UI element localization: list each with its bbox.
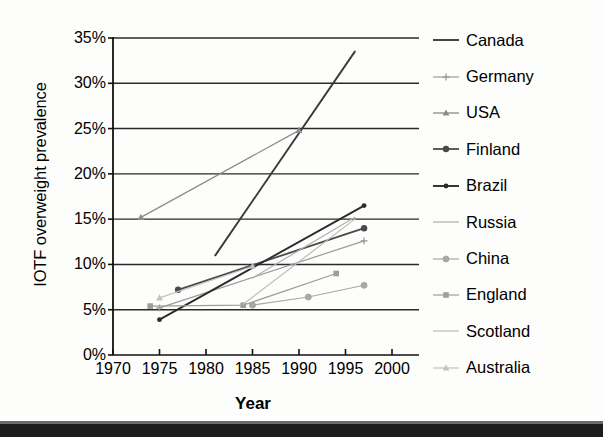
- legend-swatch-canada-icon: [432, 33, 460, 47]
- data-point-marker: [443, 146, 449, 152]
- legend-label: Russia: [466, 214, 516, 231]
- legend-item-scotland[interactable]: Scotland: [432, 313, 602, 349]
- chart-legend: CanadaGermanyUSAFinlandBrazilRussiaChina…: [432, 22, 602, 386]
- data-point-marker: [333, 271, 339, 277]
- data-point-marker: [147, 303, 153, 309]
- legend-label: Germany: [466, 68, 534, 85]
- series-line: [215, 52, 354, 256]
- legend-swatch-usa-icon: [432, 106, 460, 120]
- legend-label: Brazil: [466, 177, 507, 194]
- legend-item-russia[interactable]: Russia: [432, 204, 602, 240]
- series-line: [178, 228, 364, 290]
- legend-item-germany[interactable]: Germany: [432, 58, 602, 94]
- legend-swatch-china-icon: [432, 252, 460, 266]
- legend-label: Scotland: [466, 323, 530, 340]
- legend-item-usa[interactable]: USA: [432, 95, 602, 131]
- legend-item-australia[interactable]: Australia: [432, 350, 602, 386]
- series-canada: [215, 52, 354, 256]
- legend-label: England: [466, 286, 527, 303]
- chart-figure: IOTF overweight prevalence 0%5%10%15%20%…: [0, 0, 603, 437]
- legend-item-finland[interactable]: Finland: [432, 131, 602, 167]
- legend-label: Finland: [466, 141, 520, 158]
- legend-swatch-england-icon: [432, 288, 460, 302]
- legend-item-canada[interactable]: Canada: [432, 22, 602, 58]
- series-line: [253, 217, 355, 278]
- legend-swatch-australia-icon: [432, 361, 460, 375]
- data-series-layer: [138, 52, 368, 322]
- series-line: [160, 206, 365, 320]
- series-line: [243, 219, 355, 304]
- data-point-marker: [443, 292, 449, 298]
- legend-label: China: [466, 250, 509, 267]
- legend-item-england[interactable]: England: [432, 277, 602, 313]
- data-point-marker: [362, 203, 367, 208]
- series-russia: [253, 217, 355, 278]
- legend-swatch-finland-icon: [432, 142, 460, 156]
- data-point-marker: [157, 317, 162, 322]
- legend-swatch-scotland-icon: [432, 324, 460, 338]
- data-point-marker: [138, 214, 145, 220]
- legend-label: USA: [466, 104, 500, 121]
- legend-label: Australia: [466, 359, 530, 376]
- legend-swatch-germany-icon: [432, 70, 460, 84]
- legend-swatch-russia-icon: [432, 215, 460, 229]
- data-point-marker: [444, 183, 449, 188]
- legend-item-china[interactable]: China: [432, 240, 602, 276]
- data-point-marker: [305, 294, 311, 300]
- data-point-marker: [361, 282, 367, 288]
- legend-swatch-brazil-icon: [432, 179, 460, 193]
- data-point-marker: [443, 256, 449, 262]
- series-scotland: [243, 219, 355, 304]
- data-point-marker: [361, 225, 367, 231]
- legend-label: Canada: [466, 32, 524, 49]
- scan-artifact-band: [0, 424, 603, 437]
- legend-item-brazil[interactable]: Brazil: [432, 168, 602, 204]
